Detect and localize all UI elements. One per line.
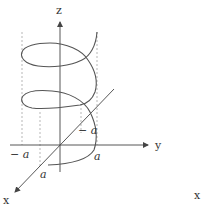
stray-x-label: x [194,189,201,202]
axes [10,22,148,192]
tick-x-neg-a: − a [78,124,97,137]
x-axis [15,89,114,192]
x-axis-label: x [3,194,10,206]
dashed-guides [22,32,97,167]
z-axis-label: z [56,4,62,17]
y-axis-label: y [154,139,162,152]
tick-y-neg-a: − a [10,148,29,161]
tick-y-pos-a: a [94,150,101,163]
helix-diagram: z y x x − a a − a a [0,0,201,206]
tick-x-pos-a: a [40,168,47,181]
